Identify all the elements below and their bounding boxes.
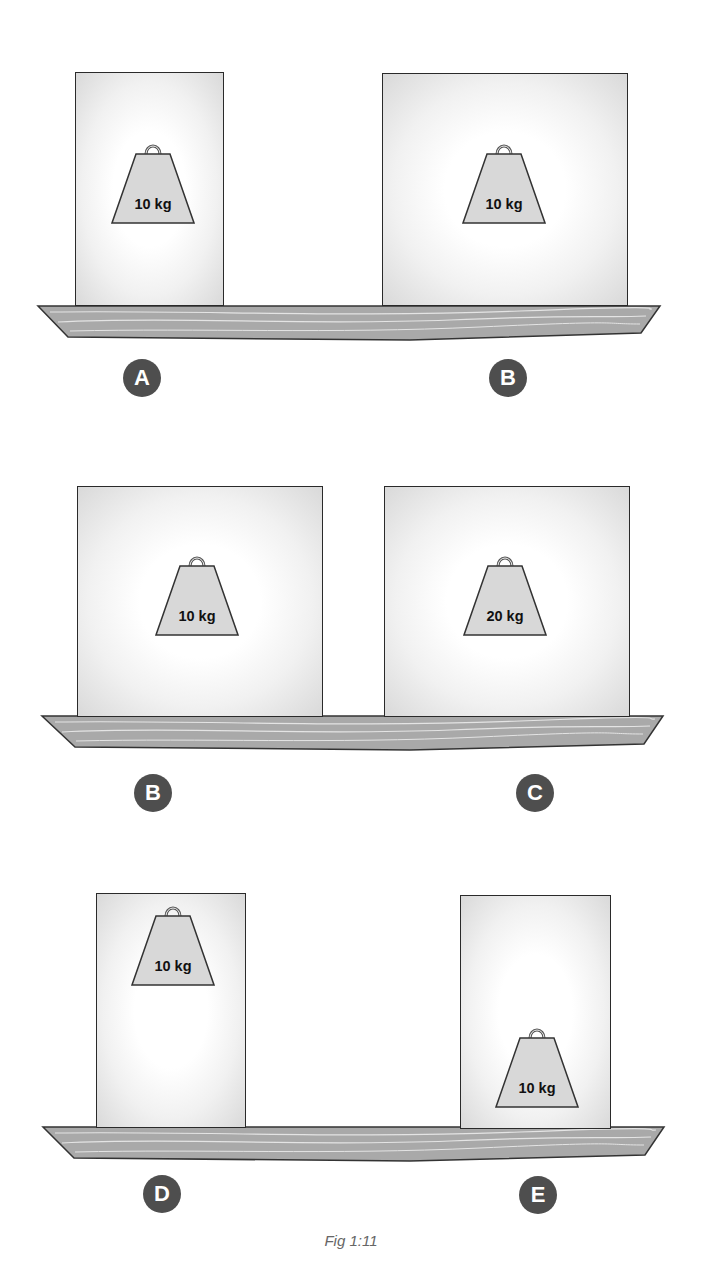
weight-d: 10 kg <box>131 904 215 986</box>
weight-label: 10 kg <box>111 196 195 212</box>
comparison-row-1: 10 kg 10 kg A B <box>0 0 702 410</box>
weight-b: 10 kg <box>462 142 546 224</box>
weight-a: 10 kg <box>111 142 195 224</box>
weight-label: 10 kg <box>155 608 239 624</box>
label-badge-a: A <box>123 359 161 397</box>
weight-label: 20 kg <box>463 608 547 624</box>
label-badge-b: B <box>134 774 172 812</box>
weight-b: 10 kg <box>155 554 239 636</box>
label-badge-d: D <box>143 1175 181 1213</box>
label-badge-b: B <box>489 359 527 397</box>
weight-c: 20 kg <box>463 554 547 636</box>
label-badge-e: E <box>519 1176 557 1214</box>
figure-caption: Fig 1:11 <box>0 1232 702 1249</box>
label-badge-c: C <box>516 774 554 812</box>
weight-label: 10 kg <box>495 1080 579 1096</box>
comparison-row-2: 10 kg 20 kg B C <box>0 410 702 830</box>
comparison-row-3: 10 kg 10 kg D E <box>0 821 702 1221</box>
weight-label: 10 kg <box>462 196 546 212</box>
weight-label: 10 kg <box>131 958 215 974</box>
weight-e: 10 kg <box>495 1026 579 1108</box>
